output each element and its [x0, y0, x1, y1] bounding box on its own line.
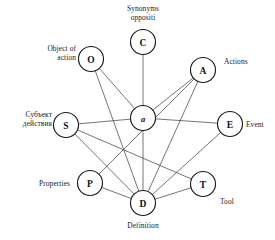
label-E: Event — [246, 120, 274, 129]
node-letter-s: S — [63, 121, 68, 131]
node-c[interactable]: C — [131, 30, 156, 55]
semantic-network-diagram: COAaSEPTD Synonyms oppositiObject of act… — [0, 0, 275, 240]
label-C: Synonyms oppositi — [112, 4, 174, 22]
nodes-layer: COAaSEPTD — [54, 30, 243, 216]
edge-p-d — [102, 187, 132, 198]
node-letter-c: C — [140, 38, 147, 48]
node-letter-p: P — [87, 179, 93, 189]
label-O: Object of action — [22, 44, 76, 62]
label-D: Definition — [113, 221, 173, 230]
node-d[interactable]: D — [131, 191, 156, 216]
node-o[interactable]: O — [79, 47, 104, 72]
edge-e-w — [155, 119, 217, 123]
node-s[interactable]: S — [54, 113, 79, 138]
node-t[interactable]: T — [191, 172, 216, 197]
edge-t-d — [155, 188, 191, 199]
node-e[interactable]: E — [218, 112, 243, 137]
node-letter-e: E — [227, 120, 233, 130]
node-letter-t: T — [200, 180, 207, 190]
label-T: Tool — [220, 197, 248, 206]
node-letter-o: O — [87, 55, 94, 65]
node-w[interactable]: a — [131, 106, 156, 131]
edge-o-w — [99, 68, 134, 108]
label-A: Actions — [224, 57, 272, 66]
node-letter-d: D — [140, 199, 147, 209]
node-a[interactable]: A — [191, 58, 216, 83]
label-P: Properties — [18, 179, 70, 188]
edge-a-d — [148, 81, 198, 191]
node-p[interactable]: P — [78, 171, 103, 196]
edge-s-w — [78, 119, 130, 124]
label-S: Субъект действия — [2, 110, 52, 128]
node-letter-a: A — [200, 66, 207, 76]
